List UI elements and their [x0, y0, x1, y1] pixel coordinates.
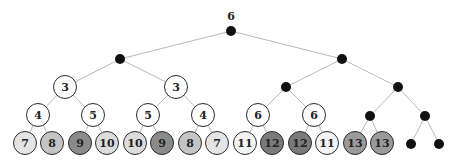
tree-edge: [398, 87, 425, 116]
tree-node-dot: [420, 111, 430, 121]
node-value: 4: [34, 109, 42, 122]
tree-node-circle: 4: [192, 104, 215, 127]
tree-node-dot: [393, 82, 403, 92]
tree-node-circle: 12: [261, 132, 284, 155]
tree-edge: [286, 59, 342, 87]
tree-node-circle: 7: [14, 132, 37, 155]
node-value: 7: [213, 137, 221, 150]
tree-node-circle: 6: [303, 104, 326, 127]
tree-node-dot: [226, 26, 236, 36]
tree-node-circle: 11: [316, 132, 339, 155]
node-value: 10: [127, 137, 143, 150]
node-value: 4: [199, 109, 207, 122]
tree-node-circle: 10: [124, 132, 147, 155]
tree-node-circle: 4: [27, 104, 50, 127]
filled-dot-icon: [337, 54, 347, 64]
tree-node-circle: 3: [165, 76, 188, 99]
tree-node-circle: 12: [289, 132, 312, 155]
tree-node-circle: 13: [371, 132, 394, 155]
tree-nodes: 334554667891010987111212111313: [14, 26, 445, 155]
node-value: 12: [292, 137, 307, 150]
filled-dot-icon: [434, 139, 444, 149]
tree-node-circle: 9: [151, 132, 174, 155]
node-value: 9: [76, 137, 84, 150]
tree-node-circle: 8: [179, 132, 202, 155]
node-value: 3: [61, 81, 69, 94]
node-value: 5: [144, 109, 152, 122]
tree-node-circle: 11: [234, 132, 257, 155]
tree-node-circle: 13: [344, 132, 367, 155]
node-value: 3: [172, 81, 180, 94]
node-value: 9: [158, 137, 166, 150]
tree-edge: [231, 31, 342, 59]
node-value: 13: [347, 137, 362, 150]
node-value: 5: [89, 109, 97, 122]
tree-node-circle: 10: [96, 132, 119, 155]
tree-node-circle: 5: [82, 104, 105, 127]
tree-node-circle: 3: [54, 76, 77, 99]
tree-edge: [120, 31, 231, 59]
node-value: 11: [319, 137, 334, 150]
filled-dot-icon: [115, 54, 125, 64]
tree-node-dot: [281, 82, 291, 92]
tree-node-circle: 9: [69, 132, 92, 155]
tree-node-dot: [115, 54, 125, 64]
node-value: 8: [186, 137, 194, 150]
tree-node-dot: [406, 139, 416, 149]
node-value: 13: [374, 137, 389, 150]
node-value: 11: [237, 137, 252, 150]
node-value: 7: [21, 137, 29, 150]
tree-node-dot: [434, 139, 444, 149]
tree-diagram: 334554667891010987111212111313 6: [0, 0, 461, 165]
filled-dot-icon: [393, 82, 403, 92]
tree-node-circle: 8: [41, 132, 64, 155]
tree-node-circle: 7: [206, 132, 229, 155]
filled-dot-icon: [365, 111, 375, 121]
tree-node-dot: [337, 54, 347, 64]
tree-edges: [25, 31, 439, 144]
root-label: 6: [227, 10, 235, 23]
node-value: 12: [264, 137, 279, 150]
filled-dot-icon: [406, 139, 416, 149]
node-value: 10: [99, 137, 115, 150]
tree-edge: [342, 59, 398, 87]
node-value: 6: [310, 109, 318, 122]
tree-node-circle: 5: [137, 104, 160, 127]
filled-dot-icon: [226, 26, 236, 36]
node-value: 6: [254, 109, 262, 122]
filled-dot-icon: [281, 82, 291, 92]
tree-node-circle: 6: [247, 104, 270, 127]
filled-dot-icon: [420, 111, 430, 121]
tree-node-dot: [365, 111, 375, 121]
node-value: 8: [48, 137, 56, 150]
tree-edge: [370, 87, 398, 116]
